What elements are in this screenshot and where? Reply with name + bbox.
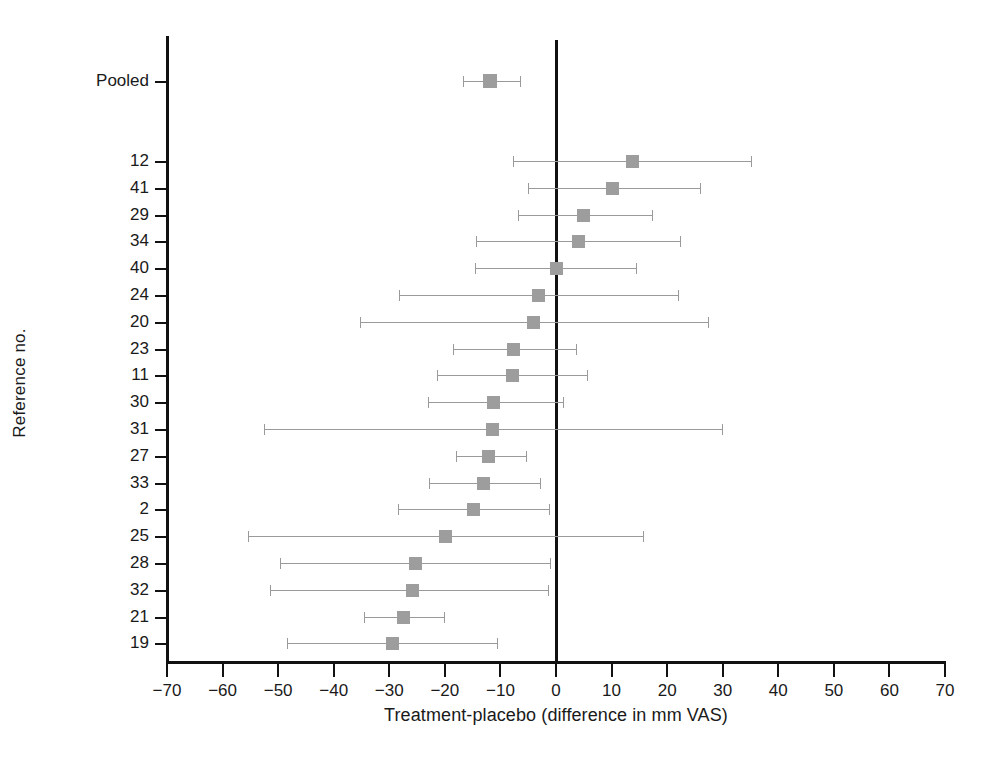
x-axis-tick bbox=[888, 664, 890, 677]
ci-upper-cap bbox=[540, 478, 541, 489]
ci-upper-cap bbox=[563, 397, 564, 408]
ci-lower-cap bbox=[399, 290, 400, 301]
ci-lower-cap bbox=[475, 263, 476, 274]
ci-lower-cap bbox=[476, 236, 477, 247]
ci-lower-cap bbox=[264, 424, 265, 435]
ci-upper-cap bbox=[520, 76, 521, 87]
point-estimate-marker bbox=[467, 503, 480, 516]
study-estimate-row bbox=[0, 554, 1000, 574]
x-axis-title: Treatment-placebo (difference in mm VAS) bbox=[167, 705, 945, 726]
study-estimate-row bbox=[0, 634, 1000, 654]
study-estimate-row bbox=[0, 527, 1000, 547]
ci-upper-cap bbox=[678, 290, 679, 301]
x-axis-tick bbox=[444, 664, 446, 677]
point-estimate-marker bbox=[439, 530, 452, 543]
ci-lower-cap bbox=[518, 210, 519, 221]
ci-upper-cap bbox=[680, 236, 681, 247]
forest-plot-figure: Reference no. Pooled12412934402420231130… bbox=[0, 0, 1000, 766]
ci-lower-cap bbox=[513, 156, 514, 167]
ci-upper-cap bbox=[700, 183, 701, 194]
point-estimate-marker bbox=[527, 316, 540, 329]
x-axis-tick-label: 70 bbox=[915, 681, 975, 701]
x-axis-tick bbox=[499, 664, 501, 677]
ci-lower-cap bbox=[364, 612, 365, 623]
point-estimate-marker bbox=[477, 477, 490, 490]
x-axis-tick bbox=[722, 664, 724, 677]
point-estimate-marker bbox=[409, 557, 422, 570]
ci-upper-cap bbox=[549, 504, 550, 515]
point-estimate-marker bbox=[482, 450, 495, 463]
ci-upper-cap bbox=[708, 317, 709, 328]
x-axis-tick-label: 10 bbox=[582, 681, 642, 701]
study-estimate-row bbox=[0, 447, 1000, 467]
point-estimate-marker bbox=[397, 611, 410, 624]
point-estimate-marker bbox=[406, 584, 419, 597]
x-axis-tick-label: −10 bbox=[470, 681, 530, 701]
x-axis-tick bbox=[833, 664, 835, 677]
ci-lower-cap bbox=[456, 451, 457, 462]
point-estimate-marker bbox=[577, 209, 590, 222]
study-estimate-row bbox=[0, 232, 1000, 252]
point-estimate-marker bbox=[626, 155, 639, 168]
study-estimate-row bbox=[0, 366, 1000, 386]
x-axis-tick-label: 50 bbox=[804, 681, 864, 701]
ci-lower-cap bbox=[428, 397, 429, 408]
ci-upper-cap bbox=[722, 424, 723, 435]
x-axis-tick bbox=[222, 664, 224, 677]
x-axis-tick-label: 60 bbox=[859, 681, 919, 701]
x-axis-tick-label: −50 bbox=[248, 681, 308, 701]
study-estimate-row bbox=[0, 500, 1000, 520]
study-estimate-row bbox=[0, 179, 1000, 199]
ci-upper-cap bbox=[550, 558, 551, 569]
study-estimate-row bbox=[0, 393, 1000, 413]
point-estimate-marker bbox=[572, 235, 585, 248]
ci-upper-cap bbox=[751, 156, 752, 167]
ci-upper-cap bbox=[652, 210, 653, 221]
point-estimate-marker bbox=[507, 343, 520, 356]
x-axis-tick-label: 30 bbox=[693, 681, 753, 701]
study-estimate-row bbox=[0, 608, 1000, 628]
ci-lower-cap bbox=[463, 76, 464, 87]
ci-lower-cap bbox=[280, 558, 281, 569]
point-estimate-marker bbox=[483, 74, 497, 88]
ci-lower-cap bbox=[398, 504, 399, 515]
x-axis-tick-label: −40 bbox=[304, 681, 364, 701]
point-estimate-marker bbox=[532, 289, 545, 302]
x-axis-tick-label: −20 bbox=[415, 681, 475, 701]
ci-upper-cap bbox=[636, 263, 637, 274]
point-estimate-marker bbox=[606, 182, 619, 195]
study-estimate-row bbox=[0, 286, 1000, 306]
study-estimate-row bbox=[0, 340, 1000, 360]
ci-upper-cap bbox=[643, 531, 644, 542]
ci-lower-cap bbox=[248, 531, 249, 542]
study-estimate-row bbox=[0, 152, 1000, 172]
x-axis-tick-label: −70 bbox=[137, 681, 197, 701]
point-estimate-marker bbox=[506, 369, 519, 382]
ci-lower-cap bbox=[287, 638, 288, 649]
study-estimate-row bbox=[0, 420, 1000, 440]
study-estimate-row bbox=[0, 313, 1000, 333]
x-axis-tick bbox=[777, 664, 779, 677]
ci-lower-cap bbox=[453, 344, 454, 355]
ci-lower-cap bbox=[528, 183, 529, 194]
x-axis-tick bbox=[666, 664, 668, 677]
point-estimate-marker bbox=[550, 262, 563, 275]
study-estimate-row bbox=[0, 206, 1000, 226]
x-axis-tick bbox=[555, 664, 557, 677]
study-estimate-row bbox=[0, 474, 1000, 494]
ci-lower-cap bbox=[437, 370, 438, 381]
pooled-estimate-row bbox=[0, 72, 1000, 92]
study-estimate-row bbox=[0, 581, 1000, 601]
ci-upper-cap bbox=[444, 612, 445, 623]
ci-lower-cap bbox=[429, 478, 430, 489]
ci-upper-cap bbox=[587, 370, 588, 381]
point-estimate-marker bbox=[486, 423, 499, 436]
ci-lower-cap bbox=[360, 317, 361, 328]
ci-upper-cap bbox=[548, 585, 549, 596]
x-axis-tick bbox=[944, 664, 946, 677]
ci-upper-cap bbox=[497, 638, 498, 649]
x-axis-tick-label: 40 bbox=[748, 681, 808, 701]
point-estimate-marker bbox=[386, 637, 399, 650]
study-estimate-row bbox=[0, 259, 1000, 279]
x-axis-tick bbox=[611, 664, 613, 677]
